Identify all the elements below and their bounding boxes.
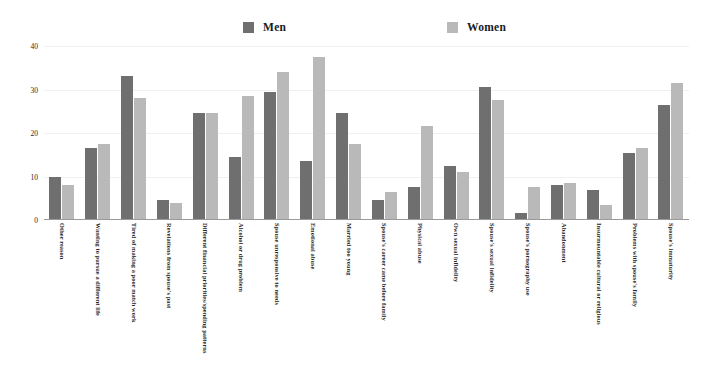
x-axis-tick-label: Spouse's sexual infidelity [488, 223, 495, 293]
bar-group [653, 46, 689, 220]
bar-women [349, 144, 361, 220]
x-axis-label-cell: Problems with spouse's family [617, 221, 653, 371]
bar-women [385, 192, 397, 220]
y-axis-tick-label: 0 [34, 216, 38, 225]
x-axis-tick-label: Spouse's immaturity [667, 223, 674, 280]
x-axis-labels: Other reasonWanting to pursue a differen… [44, 221, 689, 371]
x-axis-tick-label: Spouse's career came before family [381, 223, 388, 321]
legend-entry-men: Men [243, 16, 286, 38]
x-axis-tick-label: Own sexual infidelity [453, 223, 460, 282]
bar-men [551, 185, 563, 220]
bar-group [438, 46, 474, 220]
bar-women [528, 187, 540, 220]
bar-group [510, 46, 546, 220]
legend-swatch-women [447, 22, 458, 33]
bar-group [116, 46, 152, 220]
x-axis-label-cell: Different financial priorities/spending … [187, 221, 223, 371]
x-axis-tick-label: Different financial priorities/spending … [202, 223, 209, 353]
x-axis-tick-label: Tired of making a poor match work [130, 223, 137, 323]
x-axis-label-cell: Spouse's immaturity [653, 221, 689, 371]
x-axis-label-cell: Own sexual infidelity [438, 221, 474, 371]
bar-men [658, 105, 670, 220]
x-axis-label-cell: Spouse's sexual infidelity [474, 221, 510, 371]
bar-women [671, 83, 683, 220]
x-axis-tick-label: Alcohol or drug problem [238, 223, 245, 292]
bar-group [366, 46, 402, 220]
legend-entry-women: Women [447, 16, 506, 38]
x-axis-label-cell: Alcohol or drug problem [223, 221, 259, 371]
x-axis-tick-label: Emotional abuse [309, 223, 316, 269]
bar-women [62, 185, 74, 220]
x-axis-tick-label: Other reason [58, 223, 65, 259]
x-axis-label-cell: Physical abuse [402, 221, 438, 371]
bar-men [157, 200, 169, 220]
bar-women [313, 57, 325, 220]
bar-men [193, 113, 205, 220]
x-axis-label-cell: Spouse's career came before family [366, 221, 402, 371]
bar-group [259, 46, 295, 220]
y-axis-tick-label: 20 [31, 129, 39, 138]
x-axis-tick-label: Abandonment [560, 223, 567, 263]
bar-women [600, 205, 612, 220]
grouped-bar-chart: Men Women 010203040 Other reasonWanting … [0, 0, 702, 376]
bar-group [295, 46, 331, 220]
bar-group [223, 46, 259, 220]
bar-men [336, 113, 348, 220]
bar-women [636, 148, 648, 220]
x-axis-label-cell: Spouse's pornography use [510, 221, 546, 371]
bar-men [408, 187, 420, 220]
bar-men [300, 161, 312, 220]
x-axis-tick-label: Spouse's pornography use [524, 223, 531, 296]
bar-men [49, 177, 61, 221]
bar-women [98, 144, 110, 220]
legend-label-men: Men [263, 21, 286, 33]
y-axis-tick-label: 10 [31, 172, 39, 181]
bar-men [372, 200, 384, 220]
y-axis-tick-label: 30 [31, 85, 39, 94]
x-axis-label-cell: Emotional abuse [295, 221, 331, 371]
bar-group [44, 46, 80, 220]
x-axis-tick-label: Spouse unresponsive to needs [273, 223, 280, 305]
x-axis-tick-label: Insurmountable cultural or religious [596, 223, 603, 325]
bar-groups [44, 46, 689, 220]
bar-men [623, 153, 635, 220]
x-axis-tick-label: Problems with spouse's family [632, 223, 639, 307]
plot-inner: 010203040 [44, 46, 689, 220]
x-axis-label-cell: Wanting to pursue a different life [80, 221, 116, 371]
plot-area: 010203040 [44, 46, 689, 220]
x-axis-label-cell: Other reason [44, 221, 80, 371]
bar-men [85, 148, 97, 220]
bar-women [421, 126, 433, 220]
x-axis-tick-label: Physical abuse [417, 223, 424, 264]
bar-group [331, 46, 367, 220]
bar-men [444, 166, 456, 220]
x-axis-label-cell: Tired of making a poor match work [116, 221, 152, 371]
bar-group [581, 46, 617, 220]
bar-women [170, 203, 182, 220]
bar-women [206, 113, 218, 220]
bar-group [151, 46, 187, 220]
bar-women [492, 100, 504, 220]
y-axis-tick-label: 40 [31, 42, 39, 51]
bar-women [457, 172, 469, 220]
x-axis-label-cell: Spouse unresponsive to needs [259, 221, 295, 371]
x-axis-tick-label: Married too young [345, 223, 352, 275]
legend-swatch-men [243, 22, 254, 33]
bar-women [242, 96, 254, 220]
bar-women [564, 183, 576, 220]
legend-label-women: Women [467, 21, 506, 33]
bar-group [617, 46, 653, 220]
bar-group [402, 46, 438, 220]
x-axis-tick-label: Revelations from spouse's past [166, 223, 173, 308]
bar-men [229, 157, 241, 220]
x-axis-label-cell: Married too young [331, 221, 367, 371]
bar-group [187, 46, 223, 220]
bar-men [587, 190, 599, 220]
x-axis-label-cell: Insurmountable cultural or religious [581, 221, 617, 371]
x-axis-label-cell: Revelations from spouse's past [151, 221, 187, 371]
bar-group [474, 46, 510, 220]
bar-men [121, 76, 133, 220]
bar-women [134, 98, 146, 220]
bar-men [479, 87, 491, 220]
bar-group [80, 46, 116, 220]
